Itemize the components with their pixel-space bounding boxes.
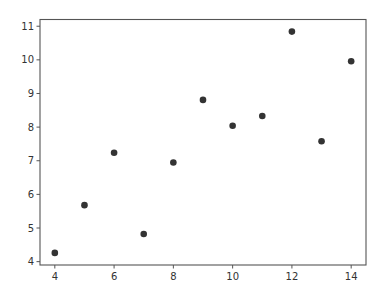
y-tick-label: 9 bbox=[28, 88, 34, 99]
points-layer bbox=[52, 28, 355, 256]
y-tick-label: 8 bbox=[28, 122, 34, 133]
data-point bbox=[229, 122, 236, 129]
data-point bbox=[289, 28, 296, 35]
y-tick-label: 10 bbox=[21, 54, 34, 65]
x-tick-label: 6 bbox=[111, 271, 117, 282]
x-axis: 468101214 bbox=[52, 265, 358, 282]
y-tick-label: 4 bbox=[28, 256, 34, 267]
data-point bbox=[81, 202, 88, 209]
data-point bbox=[259, 113, 266, 120]
x-tick-label: 12 bbox=[286, 271, 299, 282]
y-tick-label: 6 bbox=[28, 189, 34, 200]
y-axis: 4567891011 bbox=[21, 21, 40, 267]
x-tick-label: 14 bbox=[345, 271, 358, 282]
data-point bbox=[200, 97, 207, 104]
x-tick-label: 4 bbox=[52, 271, 58, 282]
x-tick-label: 10 bbox=[226, 271, 239, 282]
plot-frame bbox=[40, 20, 366, 266]
y-tick-label: 7 bbox=[28, 155, 34, 166]
data-point bbox=[111, 149, 118, 156]
data-point bbox=[140, 231, 147, 238]
data-point bbox=[52, 250, 59, 257]
x-tick-label: 8 bbox=[170, 271, 176, 282]
data-point bbox=[318, 138, 325, 145]
y-tick-label: 11 bbox=[21, 21, 34, 32]
data-point bbox=[170, 159, 177, 166]
scatter-chart: 468101214 4567891011 bbox=[0, 0, 386, 299]
y-tick-label: 5 bbox=[28, 223, 34, 234]
data-point bbox=[348, 58, 355, 65]
